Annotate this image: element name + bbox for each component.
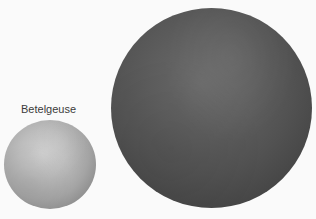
large-sphere-texture bbox=[111, 8, 312, 208]
betelgeuse-label: Betelgeuse bbox=[21, 102, 76, 116]
large-star-sphere bbox=[111, 8, 312, 208]
star-size-comparison: Betelgeuse bbox=[0, 0, 316, 219]
betelgeuse-sphere bbox=[4, 120, 96, 209]
small-sphere-texture bbox=[4, 120, 96, 209]
